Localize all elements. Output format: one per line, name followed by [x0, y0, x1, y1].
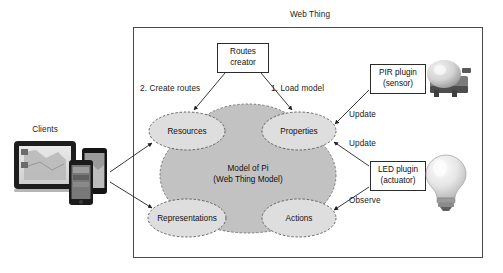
led-plugin-line2: (actuator)	[380, 176, 415, 185]
edge-label-load-model: 1. Load model	[271, 84, 324, 94]
client-devices	[14, 141, 107, 205]
routes-creator-line1: Routes	[230, 47, 256, 56]
routes-creator-line2: creator	[230, 58, 255, 67]
node-resources-shape[interactable]	[149, 112, 225, 150]
node-representations-shape[interactable]	[148, 199, 226, 237]
led-bulb-photo	[426, 155, 466, 211]
edge-label-observe: Observe	[349, 196, 381, 206]
routes-creator-label: Routes creator	[230, 47, 256, 68]
diagram-graphics	[0, 0, 503, 273]
edge-client-representations	[110, 182, 152, 208]
web-thing-title: Web Thing	[290, 10, 330, 20]
pir-plugin-line2: (sensor)	[383, 79, 413, 88]
led-plugin-line1: LED plugin	[378, 165, 418, 174]
edge-label-create-routes: 2. Create routes	[140, 84, 200, 94]
clients-label: Clients	[32, 125, 58, 135]
node-actions-shape[interactable]	[262, 199, 336, 237]
pir-plugin-line1: PIR plugin	[379, 68, 417, 77]
diagram-canvas: Web Thing Clients Routes creator PIR plu…	[0, 0, 503, 273]
pir-plugin-label: PIR plugin (sensor)	[379, 68, 417, 89]
pir-sensor-photo	[427, 60, 471, 97]
node-properties-shape[interactable]	[262, 112, 336, 150]
phone-device-front	[69, 160, 93, 205]
tablet-device	[14, 141, 76, 192]
edge-label-update-sensor: Update	[349, 110, 376, 120]
led-plugin-label: LED plugin (actuator)	[378, 165, 418, 186]
edge-label-update-actuator: Update	[349, 139, 376, 149]
edge-client-resources	[110, 143, 152, 172]
